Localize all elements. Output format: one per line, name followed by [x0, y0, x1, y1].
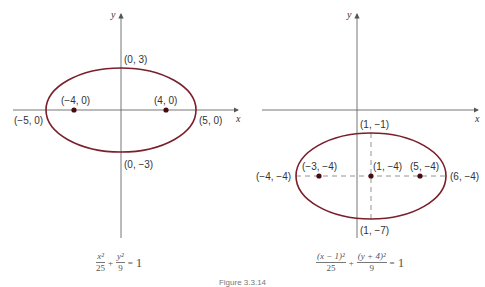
- left-focus-point: [71, 107, 76, 112]
- right-eq-term2: (y + 4)² 9: [357, 252, 387, 273]
- right-y-axis-label: y: [346, 9, 352, 20]
- right-left-focus-point: [316, 173, 321, 178]
- figure-caption: Figure 3.3.14: [0, 278, 485, 287]
- left-x-axis-label: x: [235, 113, 241, 124]
- right-center-point: [368, 173, 373, 178]
- right-bottom-vertex-label: (1, −7): [360, 225, 389, 236]
- right-left-vertex-label: (−4, −4): [256, 171, 291, 182]
- right-focus-point: [163, 107, 168, 112]
- right-equation: (x − 1)² 25 + (y + 4)² 9 = 1: [316, 252, 404, 273]
- left-eq-term1-denominator: 25: [96, 263, 105, 273]
- left-y-axis-label: y: [110, 9, 116, 20]
- right-eq-term1-numerator: (x − 1)²: [316, 252, 346, 263]
- left-right-focus-label: (4, 0): [154, 95, 177, 106]
- right-center-label: (1, −4): [373, 161, 402, 172]
- right-x-axis-label: x: [474, 113, 480, 124]
- left-right-vertex-label: (5, 0): [199, 115, 222, 126]
- ellipse-figure: x y (0, 3) (0, −3) (−5, 0) (5, 0) (−4, 0…: [0, 0, 485, 287]
- left-eq-equals: =: [128, 258, 133, 268]
- right-eq-rhs: 1: [398, 255, 405, 271]
- right-eq-term2-denominator: 9: [369, 263, 374, 273]
- left-eq-rhs: 1: [136, 255, 143, 271]
- right-right-vertex-label: (6, −4): [450, 171, 479, 182]
- right-eq-equals: =: [390, 258, 395, 268]
- left-equation: x² 25 + y² 9 = 1: [96, 252, 142, 273]
- left-left-focus-label: (−4, 0): [61, 95, 90, 106]
- left-bottom-vertex-label: (0, −3): [124, 159, 153, 170]
- right-right-focus-point: [417, 173, 422, 178]
- right-eq-plus: +: [349, 258, 354, 268]
- left-top-vertex-label: (0, 3): [124, 54, 147, 65]
- left-eq-term2-denominator: 9: [118, 263, 123, 273]
- right-eq-term1: (x − 1)² 25: [316, 252, 346, 273]
- left-eq-plus: +: [108, 258, 113, 268]
- left-eq-term2: y² 9: [116, 252, 125, 273]
- right-eq-term1-denominator: 25: [326, 263, 335, 273]
- left-left-vertex-label: (−5, 0): [14, 115, 43, 126]
- right-plot: x y (1, −1) (1, −7) (−4, −4) (6, −4) (−3…: [256, 9, 480, 238]
- right-right-focus-label: (5, −4): [410, 161, 439, 172]
- right-left-focus-label: (−3, −4): [302, 161, 337, 172]
- right-eq-term2-numerator: (y + 4)²: [357, 252, 387, 263]
- left-eq-term1: x² 25: [96, 252, 105, 273]
- left-eq-term2-numerator: y²: [116, 252, 125, 263]
- left-eq-term1-numerator: x²: [96, 252, 105, 263]
- right-top-vertex-label: (1, −1): [360, 119, 389, 130]
- left-plot: x y (0, 3) (0, −3) (−5, 0) (5, 0) (−4, 0…: [13, 9, 241, 238]
